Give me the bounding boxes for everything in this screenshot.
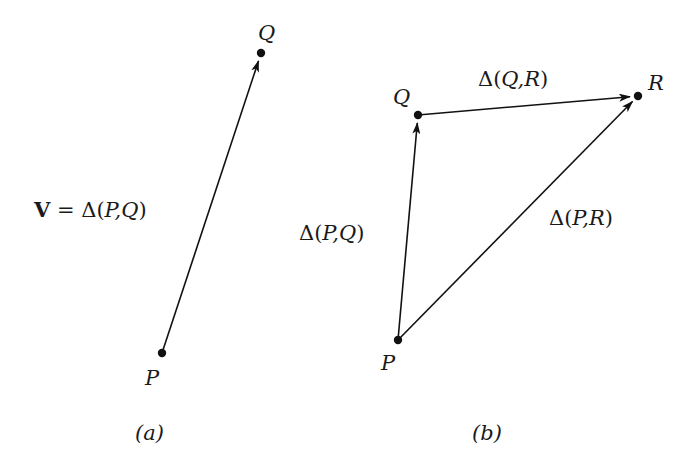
delta-open: Δ(	[478, 67, 501, 91]
vector-symbol-v: V	[33, 197, 51, 222]
point-b-p	[394, 336, 402, 344]
point-label-a-p: P	[144, 366, 160, 390]
delta-args: P,Q	[321, 221, 356, 245]
delta-open: Δ(	[549, 206, 572, 230]
caption-a: (a)	[135, 421, 164, 445]
point-b-r	[634, 92, 642, 100]
point-label-b-p: P	[380, 351, 396, 375]
vector-label-b-pr: Δ(P,R)	[549, 206, 613, 230]
delta-args: P,R	[571, 206, 605, 230]
point-label-a-q: Q	[258, 21, 275, 45]
delta-open: Δ(	[299, 221, 322, 245]
delta-close: )	[138, 198, 146, 222]
point-label-b-r: R	[647, 71, 664, 95]
point-b-q	[414, 111, 422, 119]
figure-a: Q P V = Δ(P,Q) (a)	[33, 21, 275, 445]
figure-b: Q R P Δ(Q,R) Δ(P,Q) Δ(P,R) (b)	[299, 67, 664, 445]
vector-b-pq	[398, 123, 417, 340]
delta-args: Q,R	[501, 67, 540, 91]
vector-label-b-pq: Δ(P,Q)	[299, 221, 364, 245]
point-a-q	[257, 49, 265, 57]
delta-close: )	[540, 67, 548, 91]
caption-b: (b)	[472, 421, 502, 445]
vector-diagram: Q P V = Δ(P,Q) (a) Q R P Δ(Q,R) Δ(P,Q)	[0, 0, 696, 466]
point-a-p	[158, 349, 166, 357]
delta-args: P,Q	[104, 198, 139, 222]
delta-close: )	[356, 221, 364, 245]
equals-sign: =	[50, 198, 81, 222]
point-label-b-q: Q	[393, 85, 410, 109]
delta-open: Δ(	[81, 198, 104, 222]
vector-label-b-qr: Δ(Q,R)	[478, 67, 548, 91]
delta-close: )	[605, 206, 613, 230]
vector-a-pq	[162, 61, 259, 353]
vector-b-qr	[418, 97, 630, 115]
vector-label-a: V = Δ(P,Q)	[33, 197, 147, 222]
